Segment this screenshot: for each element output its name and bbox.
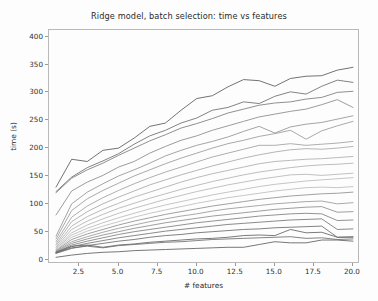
- x-tick-label: 20.0: [337, 267, 367, 276]
- figure-canvas: Ridge model, batch selection: time vs fe…: [0, 0, 378, 301]
- series-line: [56, 67, 353, 187]
- series-line: [56, 192, 353, 251]
- x-tick-label: 7.5: [142, 267, 172, 276]
- series-line: [56, 121, 353, 239]
- x-tick-label: 17.5: [298, 267, 328, 276]
- series-line: [56, 240, 353, 257]
- x-axis-label: # features: [48, 281, 359, 290]
- series-line: [56, 146, 353, 244]
- x-tick-label: 5.0: [103, 267, 133, 276]
- x-tick-label: 2.5: [63, 267, 93, 276]
- series-line: [56, 91, 353, 192]
- x-tick-label: 10.0: [181, 267, 211, 276]
- series-line: [56, 187, 353, 251]
- series-line: [56, 237, 353, 253]
- series-line: [56, 100, 353, 215]
- series-lines: [49, 30, 360, 264]
- x-tick-label: 15.0: [259, 267, 289, 276]
- x-tick-label: 12.5: [220, 267, 250, 276]
- plot-area: [48, 29, 359, 263]
